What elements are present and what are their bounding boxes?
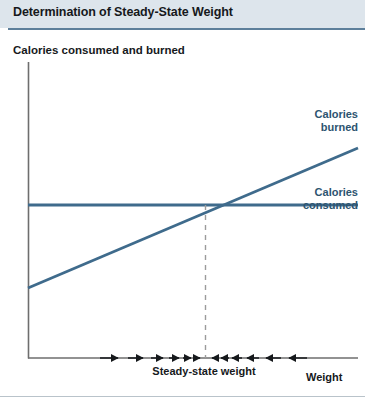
- footer-rule: [0, 396, 365, 397]
- legend-calories-burned-line2: burned: [321, 121, 358, 133]
- legend-calories-consumed-line2: consumed: [303, 199, 358, 211]
- calories-burned-line: [28, 148, 358, 288]
- legend-calories-burned: Calories burned: [255, 108, 358, 134]
- legend-calories-burned-line1: Calories: [315, 108, 358, 120]
- x-axis-title: Weight: [306, 371, 342, 383]
- legend-calories-consumed: Calories consumed: [249, 186, 358, 212]
- steady-state-weight-caption: Steady-state weight: [104, 365, 304, 377]
- legend-calories-consumed-line1: Calories: [315, 186, 358, 198]
- figure-container: Determination of Steady-State Weight Cal…: [0, 0, 365, 406]
